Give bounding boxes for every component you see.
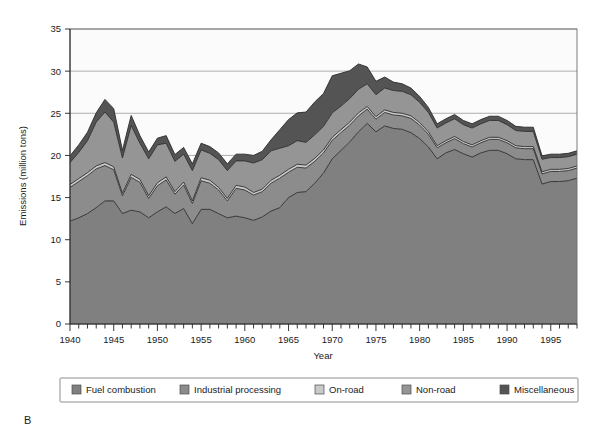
legend-label-miscellaneous: Miscellaneous [514,384,574,395]
x-tick-label: 1980 [409,334,430,345]
y-tick-label: 0 [56,318,61,329]
y-tick-label: 20 [50,150,61,161]
x-tick-label: 1940 [59,334,80,345]
legend-label-non-road: Non-road [416,384,456,395]
x-axis-title: Year [313,350,332,361]
legend-label-fuel-combustion: Fuel combustion [86,384,156,395]
y-tick-label: 35 [50,23,61,34]
x-tick-label: 1960 [234,334,255,345]
y-tick-label: 10 [50,234,61,245]
legend-swatch-miscellaneous [500,385,509,394]
x-tick-label: 1950 [147,334,168,345]
y-tick-label: 30 [50,66,61,77]
x-tick-label: 1970 [322,334,343,345]
y-axis-title: Emissions (million tons) [17,126,28,226]
legend-swatch-non-road [402,385,411,394]
x-tick-label: 1990 [496,334,517,345]
x-tick-label: 1995 [540,334,561,345]
x-tick-label: 1975 [365,334,386,345]
y-tick-label: 25 [50,108,61,119]
y-tick-label: 15 [50,192,61,203]
figure-panel-b: 05101520253035 1940194519501955196019651… [0,0,601,435]
panel-letter: B [24,414,31,426]
y-tick-label: 5 [56,276,61,287]
legend-swatch-fuel-combustion [72,385,81,394]
legend-label-industrial-processing: Industrial processing [194,384,281,395]
x-tick-label: 1985 [453,334,474,345]
legend-label-on-road: On-road [329,384,364,395]
emissions-stacked-area-chart: 05101520253035 1940194519501955196019651… [0,0,601,435]
legend-swatch-industrial-processing [180,385,189,394]
x-tick-label: 1965 [278,334,299,345]
x-tick-label: 1945 [103,334,124,345]
legend-swatch-on-road [315,385,324,394]
x-tick-label: 1955 [191,334,212,345]
